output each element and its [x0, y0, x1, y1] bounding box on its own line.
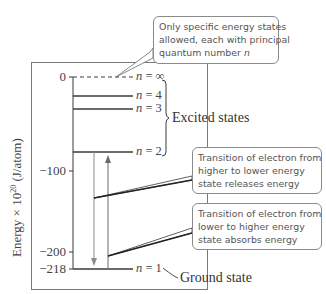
excited-states-label: Excited states: [172, 110, 249, 126]
callout-energy-states: Only specific energy states allowed, eac…: [153, 16, 279, 64]
excited-states-bracket: [162, 80, 169, 156]
callout-line: Only specific energy states: [159, 20, 273, 33]
callout-line: allowed, each with principal: [159, 33, 273, 46]
tick-label-0: 0: [26, 69, 66, 85]
ground-state-leader: [163, 268, 178, 278]
tick-label-minus-218: −218: [26, 261, 66, 277]
level-label-n-1: n = 1: [136, 261, 162, 276]
tick-label-minus-100: −100: [26, 163, 66, 179]
callout-line: higher to lower energy: [198, 164, 316, 177]
level-label-n-infinity: n = ∞: [136, 69, 164, 84]
emission-arrowhead-icon: [91, 258, 97, 266]
absorption-arrowhead-icon: [105, 155, 111, 163]
callout-line: state releases energy: [198, 177, 316, 190]
callout-absorption: Transition of electron from lower to hig…: [192, 203, 322, 250]
level-label-n-3: n = 3: [136, 101, 162, 116]
tick-label-minus-200: −200: [26, 244, 66, 260]
callout-line: Transition of electron from: [198, 151, 316, 164]
callout-line: quantum number n: [159, 46, 273, 59]
y-axis-label: Energy × 1020 (J/atom): [9, 138, 25, 257]
ground-state-label: Ground state: [180, 270, 252, 286]
level-label-n-2: n = 2: [136, 144, 162, 159]
callout-pointer-absorption: [108, 228, 192, 256]
callout-line: lower to higher energy: [198, 220, 316, 233]
callout-line: Transition of electron from: [198, 207, 316, 220]
callout-emission: Transition of electron from higher to lo…: [192, 147, 322, 194]
callout-line: state absorbs energy: [198, 233, 316, 246]
